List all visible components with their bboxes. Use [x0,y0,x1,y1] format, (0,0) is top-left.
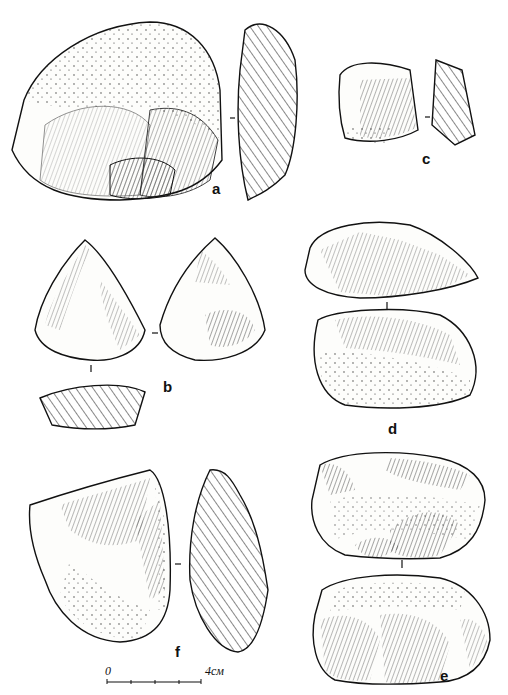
label-a: a [212,180,220,197]
artifact-e-ventral [313,575,490,684]
label-c: c [422,150,430,167]
scale-end-label: 4см [205,664,224,679]
label-d: d [388,420,397,437]
section-c [432,60,475,145]
artifact-a [12,22,222,200]
label-e: e [440,667,448,684]
artifact-f [30,470,171,642]
artifact-b-dorsal [160,238,265,360]
label-b: b [163,378,172,395]
section-b [40,385,145,429]
section-a [238,24,297,200]
scale-start-label: 0 [105,664,111,679]
scale-bar [107,679,201,684]
artifact-d-ventral [314,310,476,408]
artifact-drawings [0,0,508,695]
artifact-c [339,63,418,145]
section-f [190,470,268,652]
artifact-b-ventral [35,240,145,360]
artifact-d-dorsal [305,222,478,298]
artifact-e-dorsal [312,453,485,559]
label-f: f [175,643,180,660]
